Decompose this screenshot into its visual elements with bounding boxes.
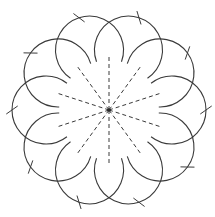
petal-arc: [127, 113, 194, 181]
dashed-ray: [77, 110, 109, 155]
dashed-ray: [77, 66, 109, 111]
petal-arc: [151, 76, 206, 144]
compass-tick: [73, 14, 84, 22]
dashed-ray: [109, 93, 161, 110]
dashed-ray: [57, 110, 109, 127]
petal-arc: [24, 113, 91, 181]
petal-arc: [94, 16, 162, 78]
petal-arc: [24, 39, 91, 107]
center-point: [107, 108, 111, 112]
dashed-ray: [109, 66, 141, 111]
petal-arc: [56, 142, 124, 204]
petal-arc: [12, 76, 67, 144]
dashed-ray: [57, 93, 109, 110]
compass-tick: [133, 198, 144, 206]
dashed-ray: [109, 110, 141, 155]
rosette-diagram: [0, 0, 215, 217]
compass-tick: [28, 160, 33, 173]
petal-arc: [94, 142, 162, 204]
dashed-ray: [109, 110, 161, 127]
petal-arc: [127, 39, 194, 107]
compass-tick: [185, 46, 190, 59]
petal-arc: [56, 16, 124, 78]
